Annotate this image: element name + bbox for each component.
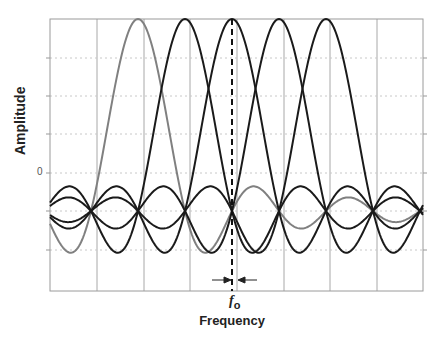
- fo-annotation: fo: [229, 293, 240, 311]
- fo-subscript: o: [234, 299, 241, 311]
- offset-arrows: [212, 277, 257, 283]
- x-axis-label: Frequency: [0, 313, 444, 328]
- y-axis-label: Amplitude: [12, 87, 28, 155]
- ofdm-spectrum-chart: [0, 0, 444, 341]
- y-tick-zero: 0: [37, 166, 43, 177]
